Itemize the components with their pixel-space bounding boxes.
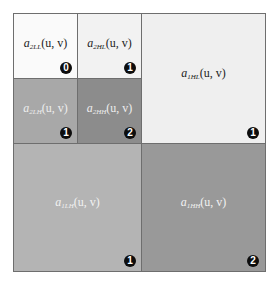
subband-1HL: a1HL(u, v) 1 bbox=[142, 14, 265, 143]
subband-2LL: a2LL(u, v) 0 bbox=[14, 14, 77, 78]
subband-1HH: a1HH(u, v) 2 bbox=[142, 144, 265, 271]
subband-label: a1LH(u, v) bbox=[14, 195, 141, 210]
level-badge: 1 bbox=[247, 127, 259, 139]
level-badge: 1 bbox=[124, 255, 136, 267]
subband-2HH: a2HH(u, v) 2 bbox=[78, 79, 141, 143]
subband-label: a2HH(u, v) bbox=[78, 101, 141, 116]
subband-2HL: a2HL(u, v) 1 bbox=[78, 14, 141, 78]
divider-inner-horizontal bbox=[14, 78, 141, 79]
subband-label: a2HL(u, v) bbox=[78, 36, 141, 51]
level-badge: 2 bbox=[124, 127, 136, 139]
subband-1LH: a1LH(u, v) 1 bbox=[14, 144, 141, 271]
level-badge: 2 bbox=[247, 255, 259, 267]
subband-label: a2LL(u, v) bbox=[14, 36, 77, 51]
subband-label: a2LH(u, v) bbox=[14, 101, 77, 116]
divider-main-horizontal bbox=[14, 143, 265, 144]
level-badge: 0 bbox=[60, 62, 72, 74]
level-badge: 1 bbox=[60, 127, 72, 139]
subband-label: a1HL(u, v) bbox=[142, 66, 265, 81]
subband-label: a1HH(u, v) bbox=[142, 195, 265, 210]
subband-grid: a2LL(u, v) 0 a2HL(u, v) 1 a2LH(u, v) 1 a… bbox=[13, 13, 266, 272]
subband-2LH: a2LH(u, v) 1 bbox=[14, 79, 77, 143]
level-badge: 1 bbox=[124, 62, 136, 74]
